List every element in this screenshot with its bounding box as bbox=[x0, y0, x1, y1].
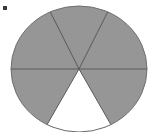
shaded-circle-diagram bbox=[0, 0, 149, 132]
figure-canvas bbox=[0, 0, 149, 132]
